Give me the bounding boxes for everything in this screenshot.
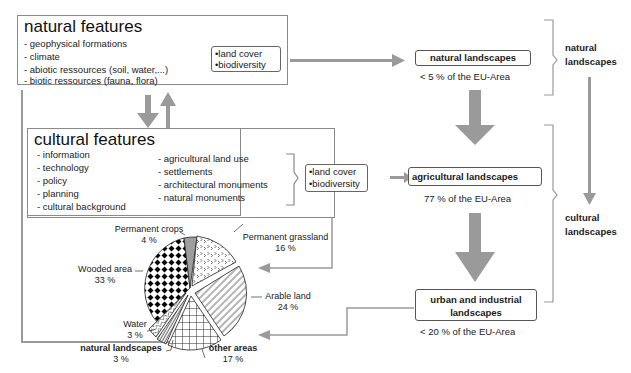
pie-label-value: 3 % — [78, 354, 164, 365]
agricultural-landscapes-box: agricultural landscapes — [408, 167, 542, 186]
natural-landscapes-share: < 5 % of the EU-Area — [420, 71, 510, 82]
slice-wooded-area — [145, 238, 190, 322]
cultural-features-title: cultural features — [34, 131, 155, 149]
arrow-to-natural-landscapes — [290, 54, 405, 67]
pie-label-name: Water — [120, 319, 150, 330]
pie-label-water: Water 3 % — [120, 319, 150, 341]
cultural-use-item: - natural monuments — [158, 191, 245, 204]
cultural-features-outputs: •land cover •biodiversity — [305, 164, 368, 192]
side-label-line: cultural — [565, 211, 617, 225]
pie-label-natural-landscapes: natural landscapes 3 % — [78, 343, 164, 365]
urban-landscapes-label-line2: landscapes — [416, 306, 536, 319]
cultural-feature-item: - cultural background — [37, 200, 126, 213]
pie-label-permanent-crops: Permanent crops 4 % — [114, 224, 184, 246]
cultural-features-box-outer: cultural features - information - techno… — [27, 128, 335, 218]
side-label-cultural-landscapes: cultural landscapes — [565, 211, 617, 239]
brace-natural — [544, 20, 557, 95]
natural-features-title: natural features — [24, 18, 142, 36]
pie-label-value: 3 % — [120, 330, 150, 341]
pie-chart — [145, 236, 247, 350]
natural-landscapes-label: natural landscapes — [430, 52, 516, 63]
cultural-use-item: - agricultural land use — [158, 152, 249, 165]
side-label-line: natural — [565, 41, 617, 55]
cultural-feature-item: - information — [37, 148, 90, 161]
pie-label-name: Permanent crops — [114, 224, 184, 235]
cultural-feature-item: - planning — [37, 187, 79, 200]
pie-label-name: natural landscapes — [78, 343, 164, 354]
agricultural-landscapes-share: 77 % of the EU-Area — [424, 193, 511, 204]
natural-feature-item: - climate — [24, 50, 60, 63]
pie-label-value: 24 % — [258, 302, 318, 313]
pie-label-value: 16 % — [238, 243, 333, 254]
pie-label-permanent-grassland: Permanent grassland 16 % — [238, 232, 333, 254]
side-label-natural-landscapes: natural landscapes — [565, 41, 617, 69]
arrow-agricultural-to-urban — [455, 213, 495, 282]
output-land-cover: •land cover — [309, 166, 364, 178]
output-biodiversity: •biodiversity — [215, 59, 277, 70]
pie-label-arable-land: Arable land 24 % — [258, 291, 318, 313]
cultural-feature-item: - technology — [37, 161, 89, 174]
urban-landscapes-label-line1: urban and industrial — [416, 293, 536, 306]
urban-landscapes-share: < 20 % of the EU-Area — [420, 326, 515, 337]
output-land-cover: •land cover — [215, 48, 277, 59]
pie-label-value: 33 % — [74, 275, 136, 286]
agricultural-landscapes-label: agricultural landscapes — [412, 171, 518, 182]
pie-label-wooded-area: Wooded area 33 % — [74, 264, 136, 286]
side-label-line: landscapes — [565, 225, 617, 239]
pie-label-value: 4 % — [114, 235, 184, 246]
arrow-natural-to-agricultural — [455, 90, 495, 145]
pie-label-name: other areas — [203, 343, 263, 354]
pie-label-value: 17 % — [203, 354, 263, 365]
pie-label-other-areas: other areas 17 % — [203, 343, 263, 365]
cultural-feature-item: - policy — [37, 174, 67, 187]
natural-landscapes-box: natural landscapes — [415, 50, 531, 66]
brace-cultural — [544, 125, 557, 302]
arrow-natural-to-cultural — [137, 95, 159, 128]
arrow-cultural-to-natural — [160, 92, 176, 128]
pie-label-name: Wooded area — [74, 264, 136, 275]
pie-label-name: Arable land — [258, 291, 318, 302]
natural-feature-item: - biotic ressources (fauna, flora) — [24, 74, 158, 87]
output-biodiversity: •biodiversity — [309, 178, 364, 190]
pie-label-name: Permanent grassland — [238, 232, 333, 243]
natural-feature-item: - geophysical formations — [24, 37, 127, 50]
natural-features-outputs: •land cover •biodiversity — [211, 46, 281, 72]
cultural-use-item: - architectural monuments — [158, 178, 268, 191]
arrow-natural-to-cultural-landscapes — [583, 77, 596, 205]
urban-industrial-landscapes-box: urban and industrial landscapes — [415, 289, 537, 321]
cultural-use-item: - settlements — [158, 165, 212, 178]
side-label-line: landscapes — [565, 55, 617, 69]
